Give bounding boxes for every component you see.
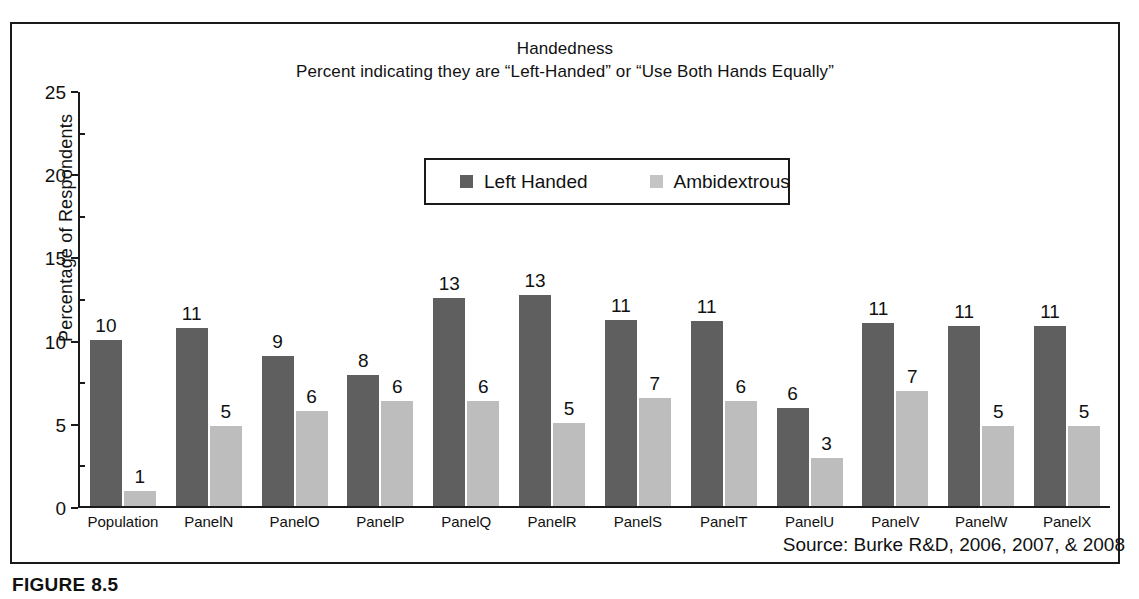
- bar-left-handed: [777, 408, 809, 506]
- bar-group: 86: [338, 90, 424, 506]
- x-axis-tick-label: PanelP: [338, 512, 424, 532]
- bar-value-label: 6: [392, 377, 403, 396]
- x-axis-tick-label: PanelO: [252, 512, 338, 532]
- legend-swatch-icon-left-handed: [460, 175, 473, 188]
- bar-left-handed: [605, 320, 637, 506]
- y-axis-tick-label: 0: [55, 499, 66, 518]
- bar-value-label: 1: [135, 467, 146, 486]
- x-axis-tick-label: PanelU: [767, 512, 853, 532]
- legend-item-ambidextrous: Ambidextrous: [650, 171, 790, 193]
- bar-ambidextrous: [296, 411, 328, 506]
- bar-left-handed: [948, 326, 980, 506]
- bar-group: 136: [423, 90, 509, 506]
- plot-area: 0510152025 Percentage of Respondents 101…: [78, 92, 1110, 508]
- bar-ambidextrous: [811, 458, 843, 506]
- y-axis-tick-label: 25: [45, 83, 66, 102]
- bar-ambidextrous: [381, 401, 413, 506]
- bar-ambidextrous: [896, 391, 928, 506]
- bar-value-label: 7: [650, 374, 661, 393]
- bar-value-label: 5: [1079, 402, 1090, 421]
- bar-group: 117: [595, 90, 681, 506]
- bar-value-label: 7: [907, 367, 918, 386]
- bar-value-label: 9: [272, 332, 283, 351]
- bar-group: 116: [681, 90, 767, 506]
- bar-left-handed: [433, 298, 465, 506]
- x-axis-tick-label: PanelT: [681, 512, 767, 532]
- x-axis-tick-label: PanelS: [595, 512, 681, 532]
- bar-left-handed: [691, 321, 723, 506]
- chart-title-block: Handedness Percent indicating they are “…: [12, 38, 1118, 83]
- bar-value-label: 13: [524, 271, 545, 290]
- x-axis-tick-label: PanelW: [938, 512, 1024, 532]
- y-axis-tick-label: 5: [55, 415, 66, 434]
- bar-value-label: 11: [954, 302, 974, 321]
- bar-value-label: 11: [1040, 302, 1060, 321]
- bar-value-label: 11: [869, 299, 889, 318]
- bar-ambidextrous: [467, 401, 499, 506]
- chart-subtitle: Percent indicating they are “Left-Handed…: [12, 60, 1118, 83]
- bar-value-label: 5: [564, 399, 575, 418]
- bar-value-label: 5: [220, 402, 231, 421]
- bar-group: 96: [252, 90, 338, 506]
- bar-value-label: 11: [611, 296, 631, 315]
- x-axis-tick-label: PanelV: [853, 512, 939, 532]
- bar-value-label: 6: [306, 387, 317, 406]
- bar-ambidextrous: [124, 491, 156, 506]
- x-axis-tick-label: PanelR: [509, 512, 595, 532]
- bar-left-handed: [262, 356, 294, 506]
- bar-left-handed: [90, 340, 122, 506]
- y-axis-tick: [71, 424, 78, 426]
- bar-left-handed: [519, 295, 551, 506]
- source-note: Source: Burke R&D, 2006, 2007, & 2008: [783, 534, 1125, 556]
- bar-ambidextrous: [1068, 426, 1100, 506]
- bar-ambidextrous: [210, 426, 242, 506]
- bar-value-label: 11: [182, 304, 202, 323]
- legend-label-ambidextrous: Ambidextrous: [674, 171, 790, 193]
- bar-left-handed: [862, 323, 894, 506]
- legend-swatch-icon-ambidextrous: [650, 175, 663, 188]
- bar-group: 115: [938, 90, 1024, 506]
- bar-ambidextrous: [725, 401, 757, 506]
- bar-group: 115: [1024, 90, 1110, 506]
- bar-group: 115: [166, 90, 252, 506]
- bar-group: 63: [767, 90, 853, 506]
- bar-value-label: 3: [821, 434, 832, 453]
- bar-value-label: 10: [95, 316, 116, 335]
- figure-caption: FIGURE 8.5: [12, 574, 118, 596]
- bar-groups: 101115968613613511711663117115115: [80, 90, 1110, 506]
- bar-group: 117: [853, 90, 939, 506]
- x-axis-tick-label: Population: [80, 512, 166, 532]
- legend-label-left-handed: Left Handed: [484, 171, 588, 193]
- bar-left-handed: [176, 328, 208, 506]
- chart-title: Handedness: [12, 38, 1118, 60]
- chart-legend: Left Handed Ambidextrous: [424, 158, 790, 205]
- x-axis-tick-label: PanelN: [166, 512, 252, 532]
- bar-value-label: 11: [697, 297, 717, 316]
- y-axis-title: Percentage of Respondents: [56, 114, 77, 342]
- legend-item-left-handed: Left Handed: [460, 171, 588, 193]
- bar-value-label: 6: [478, 377, 489, 396]
- y-axis-tick: [71, 91, 78, 93]
- bar-group: 101: [80, 90, 166, 506]
- bar-ambidextrous: [639, 398, 671, 506]
- bar-left-handed: [347, 375, 379, 506]
- bar-value-label: 13: [439, 274, 460, 293]
- bar-value-label: 8: [358, 351, 369, 370]
- y-axis-tick: [71, 507, 78, 509]
- bar-value-label: 5: [993, 402, 1004, 421]
- bar-left-handed: [1034, 326, 1066, 506]
- x-axis-tick-label: PanelX: [1024, 512, 1110, 532]
- x-axis-line: [78, 506, 1110, 508]
- x-axis-tick-label: PanelQ: [423, 512, 509, 532]
- bar-group: 135: [509, 90, 595, 506]
- bar-value-label: 6: [735, 377, 746, 396]
- bar-ambidextrous: [553, 423, 585, 506]
- bar-ambidextrous: [982, 426, 1014, 506]
- bar-value-label: 6: [787, 384, 798, 403]
